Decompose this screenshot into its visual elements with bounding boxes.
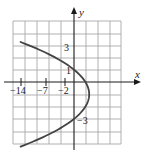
x-tick-label-neg2: −2: [58, 85, 69, 96]
x-tick-label-neg7: −7: [37, 85, 48, 96]
x-axis-label: x: [134, 68, 140, 80]
parabola-graph: x y −14 −7 −2 3 1 −3: [0, 0, 144, 150]
y-axis-arrow-icon: [71, 7, 77, 14]
y-axis-label: y: [78, 6, 84, 18]
y-tick-label-neg3: −3: [77, 115, 88, 126]
y-tick-label-3: 3: [64, 42, 69, 53]
x-tick-label-neg14: −14: [10, 85, 26, 96]
